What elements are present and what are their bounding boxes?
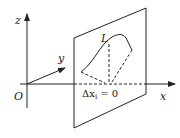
projection-line [112,50,132,82]
origin-label: O [14,90,23,103]
x-label: x [160,90,167,103]
equation-rest: = 0 [97,88,118,99]
projection-line [81,72,105,83]
equation-delta: Δx [82,88,95,99]
diagram-canvas: z y x O L Δxi = 0 [0,0,180,138]
z-label: z [14,14,21,27]
y-axis [27,68,65,84]
plane [74,8,146,128]
equation-label: Δxi = 0 [82,88,118,101]
curve-label: L [100,32,108,45]
y-label: y [57,52,65,65]
